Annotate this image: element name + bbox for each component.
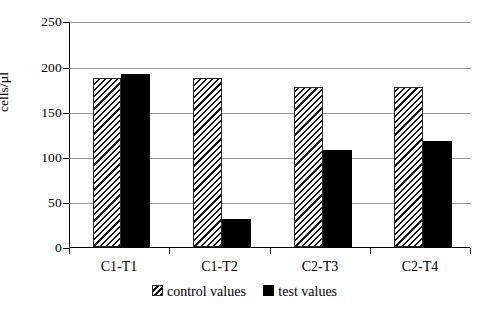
x-category-label-3: C2-T4 [370,259,470,275]
x-axis-tick [470,248,471,254]
gridline-200 [70,68,471,69]
bar-control-c2-t3 [294,87,323,247]
y-tick-label-150: 150 [22,106,62,120]
bar-control-c2-t4 [394,87,423,247]
black-swatch-icon [263,285,274,296]
x-axis-tick [169,248,170,254]
bar-test-c2-t4 [423,141,452,247]
y-tick-label-50: 50 [22,196,62,210]
hatched-swatch-icon [152,285,163,296]
y-tick-label-250: 250 [22,15,62,29]
gridline-250 [70,22,471,23]
x-axis-tick [270,248,271,254]
bar-test-c1-t2 [222,219,251,247]
y-tick-label-200: 200 [22,61,62,75]
x-category-label-2: C2-T3 [270,259,370,275]
x-axis-tick [69,248,70,254]
plot-area [69,22,470,248]
x-category-label-1: C1-T2 [169,259,270,275]
bar-control-c1-t2 [193,78,222,247]
legend-item-control: control values [152,283,246,300]
x-axis-tick [370,248,371,254]
chart-legend: control values test values [0,283,489,300]
legend-item-test: test values [263,283,337,300]
y-tick-label-0: 0 [22,241,62,255]
y-tick-label-100: 100 [22,151,62,165]
bar-test-c2-t3 [323,150,352,247]
legend-label-test: test values [278,284,337,299]
y-axis-title: cells/µl [0,72,12,112]
bar-chart: 250 200 150 100 50 0 cells/µl C1-T1 [0,0,489,327]
bar-control-c1-t1 [93,78,121,247]
legend-label-control: control values [167,284,246,299]
x-category-label-0: C1-T1 [69,259,169,275]
bar-test-c1-t1 [121,74,150,247]
